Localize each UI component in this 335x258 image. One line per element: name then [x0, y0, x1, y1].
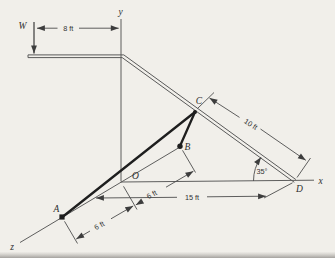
label-y-axis: y: [117, 7, 123, 17]
label-w: W: [19, 21, 28, 31]
label-x-axis: x: [318, 176, 324, 186]
dim-15ft-text: 15 ft: [185, 193, 199, 202]
label-point-d: D: [295, 184, 303, 194]
angle-35-text: 35°: [256, 167, 267, 176]
label-point-o: O: [132, 171, 139, 181]
label-point-c: C: [196, 96, 203, 106]
point-a-marker: [59, 214, 64, 219]
statics-figure: 8 ft 10 ft 35° 15 ft 6 ft 6 ft: [0, 0, 335, 258]
point-c-marker: [193, 110, 197, 114]
dim-15ft-line-right: [207, 196, 266, 197]
paper-background: [0, 0, 335, 258]
point-b-marker: [177, 144, 182, 149]
dim-8ft-text: 8 ft: [63, 24, 73, 33]
label-point-a: A: [53, 204, 60, 214]
label-point-b: B: [185, 142, 191, 152]
label-z-axis: z: [9, 242, 14, 252]
page-edge-shadow: [0, 252, 335, 258]
